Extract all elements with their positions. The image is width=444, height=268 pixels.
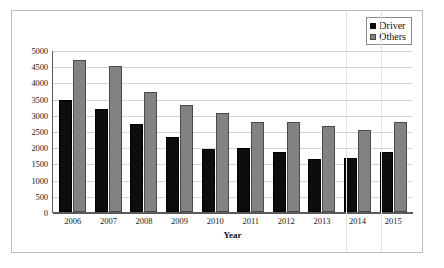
x-tick-label-2009: 2009: [171, 216, 188, 226]
y-tick-label-2500: 2500: [31, 127, 48, 137]
bar-driver-2014[interactable]: [344, 158, 357, 212]
bar-group-2011: 2011: [233, 51, 269, 212]
bar-group-2010: 2010: [197, 51, 233, 212]
y-tick-label-3000: 3000: [31, 111, 48, 121]
bar-others-2009[interactable]: [180, 105, 193, 212]
bar-driver-2007[interactable]: [95, 109, 108, 212]
bar-others-2010[interactable]: [216, 113, 229, 212]
y-tick-label-4000: 4000: [31, 78, 48, 88]
bar-others-2013[interactable]: [322, 126, 335, 212]
bar-group-2009: 2009: [162, 51, 198, 212]
bar-group-2008: 2008: [126, 51, 162, 212]
x-tick-label-2012: 2012: [278, 216, 295, 226]
x-tick-label-2008: 2008: [135, 216, 152, 226]
bar-others-2008[interactable]: [144, 92, 157, 212]
y-axis-title: Deaths: [59, 118, 69, 145]
legend-item-driver[interactable]: Driver: [370, 20, 406, 31]
chart-legend: Driver Others: [366, 17, 412, 45]
x-tick-label-2010: 2010: [207, 216, 224, 226]
chart-figure: 0500100015002000250030003500400045005000…: [11, 10, 423, 253]
bar-group-2014: 2014: [340, 51, 376, 212]
x-tick-label-2013: 2013: [313, 216, 330, 226]
bar-groups: 2006200720082009201020112012201320142015: [53, 51, 413, 212]
legend-label-others: Others: [379, 31, 406, 42]
y-tick-label-1500: 1500: [31, 159, 48, 169]
bar-driver-2010[interactable]: [202, 149, 215, 212]
legend-swatch-others-icon: [370, 34, 376, 40]
x-tick-label-2015: 2015: [385, 216, 402, 226]
y-tick-label-500: 500: [36, 192, 48, 202]
bar-driver-2013[interactable]: [308, 159, 321, 212]
gridline-0: [53, 213, 413, 214]
bar-group-2015: 2015: [375, 51, 411, 212]
legend-label-driver: Driver: [379, 20, 405, 31]
x-tick-label-2011: 2011: [242, 216, 259, 226]
y-tick-label-0: 0: [44, 208, 48, 218]
bar-driver-2015[interactable]: [380, 152, 393, 212]
legend-swatch-driver-icon: [370, 23, 376, 29]
bar-driver-2009[interactable]: [166, 137, 179, 212]
bar-others-2015[interactable]: [394, 122, 407, 212]
bar-group-2007: 2007: [91, 51, 127, 212]
y-tick-label-1000: 1000: [31, 176, 48, 186]
bar-others-2007[interactable]: [109, 66, 122, 212]
bar-group-2013: 2013: [304, 51, 340, 212]
y-tick-label-5000: 5000: [31, 46, 48, 56]
bar-driver-2006[interactable]: [59, 100, 72, 212]
bar-others-2014[interactable]: [358, 130, 371, 212]
y-tick-label-4500: 4500: [31, 62, 48, 72]
y-tick-label-3500: 3500: [31, 95, 48, 105]
x-tick-label-2014: 2014: [349, 216, 366, 226]
bar-driver-2012[interactable]: [273, 152, 286, 212]
x-axis-title: Year: [52, 230, 413, 240]
bar-driver-2008[interactable]: [130, 124, 143, 212]
bar-group-2012: 2012: [269, 51, 305, 212]
bar-others-2011[interactable]: [251, 122, 264, 212]
y-tick-label-2000: 2000: [31, 143, 48, 153]
bar-driver-2011[interactable]: [237, 148, 250, 212]
legend-item-others[interactable]: Others: [370, 31, 406, 42]
x-tick-label-2006: 2006: [64, 216, 81, 226]
bar-others-2006[interactable]: [73, 60, 86, 212]
plot-area: 0500100015002000250030003500400045005000…: [52, 51, 413, 213]
x-tick-label-2007: 2007: [100, 216, 117, 226]
bar-others-2012[interactable]: [287, 122, 300, 212]
